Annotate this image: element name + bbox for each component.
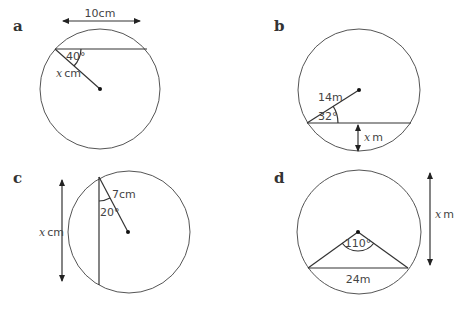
unknown-label: xm: [435, 208, 454, 221]
radius-label: 14m: [318, 91, 343, 104]
angle-label: 20°: [100, 206, 120, 219]
diagram-b: b 32° 14m xm: [274, 17, 420, 151]
variable-x: x: [56, 67, 63, 80]
unknown-label: xm: [364, 131, 383, 144]
diagram-canvas: a 10cm 40° xcm b 32° 14m xm c 20° 7cm: [0, 0, 462, 310]
diagram-d: d 110° 24m xm: [274, 169, 454, 294]
center-dot: [98, 87, 102, 91]
center-dot: [357, 88, 361, 92]
radius-label: 7cm: [112, 188, 136, 201]
diagram-c: c 20° 7cm xcm: [13, 169, 190, 293]
unknown-label: xcm: [39, 226, 64, 239]
label-a: a: [13, 17, 23, 35]
radius-label: xcm: [56, 67, 81, 80]
label-c: c: [13, 169, 22, 187]
center-dot: [356, 230, 360, 234]
chord-length-label: 10cm: [85, 7, 116, 20]
angle-label: 32°: [318, 110, 338, 123]
angle-label: 40°: [66, 50, 86, 63]
radius-line: [99, 177, 128, 232]
diagram-a: a 10cm 40° xcm: [13, 7, 160, 149]
angle-label: 110°: [345, 237, 372, 250]
label-b: b: [274, 17, 285, 35]
chord-label: 24m: [346, 273, 371, 286]
center-dot: [126, 230, 130, 234]
label-d: d: [274, 169, 285, 187]
angle-arc: [99, 198, 110, 201]
circle-diagrams: a 10cm 40° xcm b 32° 14m xm c 20° 7cm: [0, 0, 462, 310]
